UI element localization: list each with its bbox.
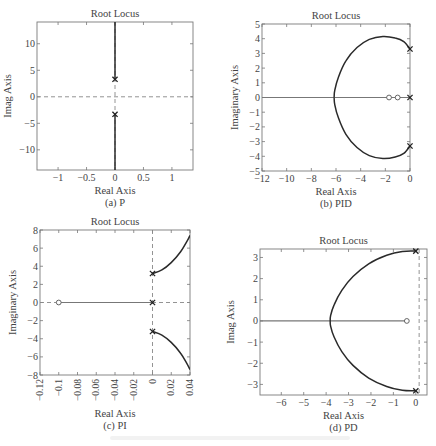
x-tick-label: −1: [53, 172, 64, 183]
y-tick-label: 6: [33, 243, 38, 254]
x-tick-label: −0.5: [77, 172, 95, 183]
root-locus-figure: −1−0.500.51−10−50510Root LocusReal Axis(…: [0, 0, 436, 446]
x-tick-label: 0: [413, 397, 418, 408]
chart-title: Root Locus: [319, 235, 368, 246]
x-tick-label: −0.1: [54, 379, 64, 396]
plots-canvas: −1−0.500.51−10−50510Root LocusReal Axis(…: [0, 0, 436, 446]
x-tick-label: 0: [148, 379, 158, 384]
y-tick-label: 4: [255, 33, 260, 44]
y-tick-label: −2: [249, 121, 260, 132]
locus-branch-lower-arc: [330, 321, 416, 391]
x-tick-label: 0.5: [137, 172, 150, 183]
x-tick-label: −6: [331, 173, 342, 184]
subplot-caption: (b) PID: [320, 198, 352, 210]
x-tick-label: −4: [321, 397, 332, 408]
y-tick-label: 3: [253, 252, 258, 263]
zero-marker-icon: [56, 300, 61, 305]
x-tick-label: −0.12: [35, 379, 45, 401]
x-tick-label: −3: [343, 397, 354, 408]
chart-title: Root Locus: [91, 8, 140, 19]
x-tick-label: −6: [276, 397, 287, 408]
y-tick-label: −4: [249, 151, 260, 162]
y-tick-label: −3: [249, 136, 260, 147]
plot-d: −6−5−4−3−2−10−3−2−10123Root LocusReal Ax…: [225, 235, 427, 434]
figure-caption-placeholder: [110, 436, 350, 440]
y-tick-label: 3: [255, 48, 260, 59]
locus-branch-upper-curve: [153, 235, 191, 273]
y-tick-label: 1: [253, 294, 258, 305]
x-axis-label: Real Axis: [315, 186, 356, 197]
x-tick-label: −10: [279, 173, 295, 184]
y-tick-label: 5: [255, 19, 260, 30]
plot-c: −0.12−0.1−0.08−0.06−0.04−0.0200.020.04−8…: [7, 216, 195, 432]
x-axis-label: Real Axis: [94, 185, 135, 196]
x-tick-label: 1: [169, 172, 174, 183]
y-tick-label: −8: [27, 370, 38, 381]
y-tick-label: −6: [27, 351, 38, 362]
y-tick-label: −2: [247, 358, 258, 369]
chart-title: Root Locus: [312, 10, 361, 21]
x-tick-label: −8: [306, 173, 317, 184]
y-tick-label: −5: [249, 166, 260, 177]
plot-frame: [260, 249, 427, 395]
locus-branch-lower-arc: [334, 98, 410, 159]
zero-marker-icon: [387, 95, 392, 100]
x-axis-label: Real Axis: [323, 410, 364, 421]
plot-area: [260, 249, 419, 395]
x-tick-label: −1: [388, 397, 399, 408]
y-tick-label: 0: [30, 91, 35, 102]
y-tick-label: −10: [19, 144, 35, 155]
x-tick-label: 0: [113, 172, 118, 183]
x-axis-label: Real Axis: [94, 408, 135, 419]
y-axis-label: Imaginary Axis: [7, 270, 18, 335]
subplot-caption: (d) PD: [329, 422, 358, 434]
subplot-caption: (c) PI: [103, 420, 127, 432]
x-tick-label: −0.08: [73, 379, 83, 401]
chart-title: Root Locus: [91, 216, 140, 227]
y-tick-label: 10: [25, 38, 35, 49]
x-tick-label: −4: [355, 173, 366, 184]
y-tick-label: 0: [253, 315, 258, 326]
plot-a: −1−0.500.51−10−50510Root LocusReal Axis(…: [2, 8, 193, 209]
y-tick-label: −2: [27, 315, 38, 326]
y-tick-label: −4: [27, 333, 38, 344]
y-tick-label: −1: [249, 107, 260, 118]
x-tick-label: −2: [366, 397, 377, 408]
zero-marker-icon: [395, 95, 400, 100]
y-tick-label: 1: [255, 77, 260, 88]
y-tick-label: 2: [253, 273, 258, 284]
y-tick-label: −3: [247, 379, 258, 390]
y-axis-label: Imaginary Axis: [229, 65, 240, 130]
zero-marker-icon: [404, 319, 409, 324]
y-axis-label: Imag Axis: [2, 74, 13, 117]
x-tick-label: 0.04: [185, 379, 195, 396]
x-tick-label: −2: [380, 173, 391, 184]
plot-area: [37, 22, 193, 170]
locus-branch-upper-arc: [334, 36, 410, 97]
y-tick-label: 8: [33, 225, 38, 236]
x-tick-label: −0.04: [110, 379, 120, 401]
plot-b: −12−10−8−6−4−20−5−4−3−2−1012345Root Locu…: [229, 10, 413, 210]
x-tick-label: 0.02: [166, 379, 176, 396]
locus-branch-upper-arc: [330, 251, 416, 321]
y-tick-label: 0: [33, 297, 38, 308]
y-tick-label: −5: [24, 118, 35, 129]
x-tick-label: −0.02: [129, 379, 139, 401]
y-tick-label: 5: [30, 65, 35, 76]
plot-area: [40, 230, 190, 375]
locus-branch-lower-curve: [153, 332, 191, 370]
x-tick-label: −0.06: [91, 379, 101, 401]
x-tick-label: −5: [298, 397, 309, 408]
y-tick-label: 2: [255, 63, 260, 74]
y-tick-label: 0: [255, 92, 260, 103]
x-tick-label: 0: [408, 173, 413, 184]
subplot-caption: (a) P: [105, 197, 125, 209]
y-tick-label: 2: [33, 279, 38, 290]
y-tick-label: 4: [33, 261, 38, 272]
y-axis-label: Imag Axis: [225, 300, 236, 343]
y-tick-label: −1: [247, 337, 258, 348]
